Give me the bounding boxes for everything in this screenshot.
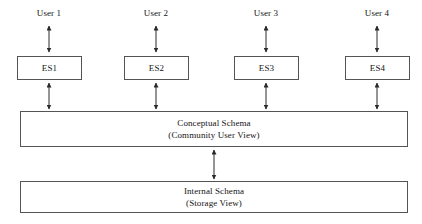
connector-conceptual-to-internal: [208, 147, 220, 182]
internal-schema-title: Internal Schema: [184, 185, 244, 197]
external-schema-box-2[interactable]: ES2: [124, 56, 189, 80]
external-schema-box-3[interactable]: ES3: [234, 56, 299, 80]
external-schema-box-1[interactable]: ES1: [17, 56, 82, 80]
connector-user4-to-es4: [371, 22, 383, 56]
user-label-1: User 1: [19, 8, 79, 19]
conceptual-schema-box[interactable]: Conceptual Schema (Community User View): [20, 111, 408, 147]
connector-user2-to-es2: [150, 22, 162, 56]
conceptual-schema-subtitle: (Community User View): [168, 129, 259, 141]
connector-user3-to-es3: [260, 22, 272, 56]
external-schema-box-4[interactable]: ES4: [345, 56, 410, 80]
user-label-2: User 2: [126, 8, 186, 19]
internal-schema-box[interactable]: Internal Schema (Storage View): [20, 181, 408, 213]
user-label-3: User 3: [236, 8, 296, 19]
external-schema-label-2: ES2: [149, 63, 164, 74]
connector-es2-to-conceptual: [150, 80, 162, 112]
three-level-architecture-diagram: User 1 User 2 User 3 User 4: [0, 0, 422, 224]
connector-es3-to-conceptual: [260, 80, 272, 112]
conceptual-schema-title: Conceptual Schema: [177, 117, 250, 129]
internal-schema-subtitle: (Storage View): [186, 197, 242, 209]
connector-es1-to-conceptual: [43, 80, 55, 112]
external-schema-label-4: ES4: [370, 63, 385, 74]
user-label-4: User 4: [347, 8, 407, 19]
external-schema-label-1: ES1: [42, 63, 57, 74]
connector-es4-to-conceptual: [371, 80, 383, 112]
connector-user1-to-es1: [43, 22, 55, 56]
external-schema-label-3: ES3: [259, 63, 274, 74]
